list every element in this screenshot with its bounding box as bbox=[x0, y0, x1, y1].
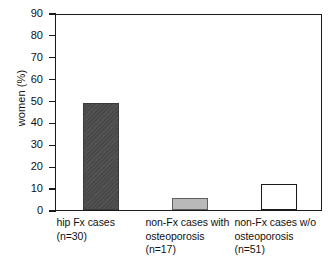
x-axis-category-line: (n=51) bbox=[235, 243, 327, 257]
x-axis-category-line: (n=30) bbox=[57, 230, 149, 244]
x-axis-category-label: non-Fx cases withosteoporosis(n=17) bbox=[146, 216, 238, 257]
x-axis-category-label: hip Fx cases(n=30) bbox=[57, 216, 149, 243]
bar-3 bbox=[261, 184, 297, 210]
x-axis-category-line: hip Fx cases bbox=[57, 216, 149, 230]
bar-chart-figure: women (%) 0102030405060708090 hip Fx cas… bbox=[0, 0, 332, 265]
x-axis-category-line: non-Fx cases with bbox=[146, 216, 238, 230]
x-axis-category-label: non-Fx cases w/oosteoporosis(n=51) bbox=[235, 216, 327, 257]
y-axis-tick-label: 30 bbox=[31, 137, 43, 152]
y-axis-tick-label: 60 bbox=[31, 72, 43, 87]
y-axis-tick-label: 10 bbox=[31, 181, 43, 196]
bar-2 bbox=[172, 198, 208, 210]
bar-1 bbox=[83, 103, 119, 210]
x-axis-category-line: non-Fx cases w/o bbox=[235, 216, 327, 230]
y-axis-title: women (%) bbox=[15, 33, 27, 163]
y-axis-tick-label: 50 bbox=[31, 94, 43, 109]
x-axis-category-line: (n=17) bbox=[146, 243, 238, 257]
y-axis-tick-label: 20 bbox=[31, 159, 43, 174]
x-axis-category-line: osteoporosis bbox=[235, 230, 327, 244]
y-axis-tick-label: 90 bbox=[31, 6, 43, 21]
y-axis-tick-label: 40 bbox=[31, 115, 43, 130]
y-axis-tick-label: 70 bbox=[31, 50, 43, 65]
x-axis-category-line: osteoporosis bbox=[146, 230, 238, 244]
plot-area bbox=[55, 14, 322, 211]
y-axis-tick-label: 0 bbox=[37, 203, 43, 218]
y-axis-tick-label: 80 bbox=[31, 28, 43, 43]
